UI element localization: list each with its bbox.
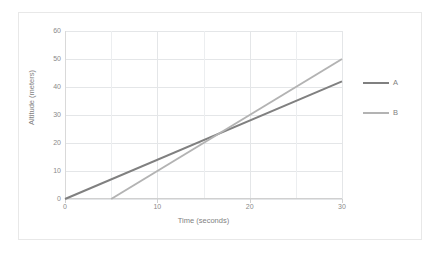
x-tick-label: 0 bbox=[50, 203, 80, 210]
y-axis-tick-labels: 0102030405060 bbox=[37, 31, 61, 199]
plot-area bbox=[65, 31, 342, 199]
chart-container: Altitude (meters) 0102030405060 0102030 … bbox=[18, 12, 422, 240]
y-tick-label: 50 bbox=[39, 55, 61, 62]
y-tick-label: 20 bbox=[39, 139, 61, 146]
gridline-horizontal bbox=[65, 199, 342, 200]
series-line-b bbox=[111, 59, 342, 199]
series-lines bbox=[65, 31, 342, 199]
x-tick-label: 10 bbox=[142, 203, 172, 210]
legend-color-swatch bbox=[363, 82, 389, 85]
x-tick-label: 20 bbox=[235, 203, 265, 210]
y-tick-label: 30 bbox=[39, 111, 61, 118]
legend-item[interactable]: B bbox=[363, 107, 419, 119]
x-axis-title: Time (seconds) bbox=[65, 216, 342, 225]
y-tick-label: 10 bbox=[39, 167, 61, 174]
y-axis-title: Altitude (meters) bbox=[27, 43, 36, 153]
y-tick-label: 0 bbox=[39, 195, 61, 202]
legend-label: B bbox=[393, 109, 398, 117]
legend-color-swatch bbox=[363, 112, 389, 115]
x-tick-label: 30 bbox=[327, 203, 357, 210]
legend-item[interactable]: A bbox=[363, 77, 419, 89]
y-tick-label: 40 bbox=[39, 83, 61, 90]
y-tick-label: 60 bbox=[39, 27, 61, 34]
x-axis-tick-labels: 0102030 bbox=[65, 203, 342, 215]
gridline-vertical bbox=[342, 31, 343, 199]
series-line-a bbox=[65, 81, 342, 199]
legend-label: A bbox=[393, 79, 398, 87]
chart-legend: AB bbox=[363, 77, 419, 137]
